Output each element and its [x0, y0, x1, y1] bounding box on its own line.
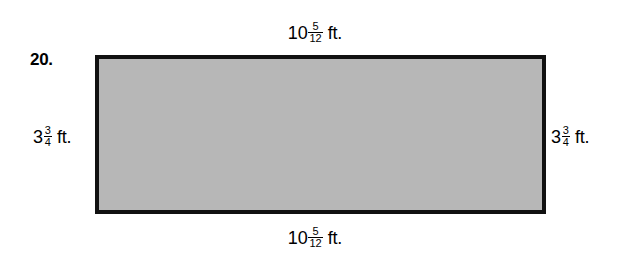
right-side-length-label: 3 3 4 ft. [551, 125, 589, 148]
right-fraction: 3 4 [562, 125, 570, 148]
problem-number: 20. [30, 51, 53, 68]
left-whole-number: 3 [33, 128, 43, 146]
right-unit: ft. [575, 128, 589, 146]
left-unit: ft. [57, 128, 71, 146]
top-fraction: 5 12 [308, 21, 322, 44]
left-numerator: 3 [44, 125, 52, 136]
right-numerator: 3 [562, 125, 570, 136]
right-denominator: 4 [562, 136, 570, 148]
top-side-length-label: 10 5 12 ft. [0, 21, 630, 44]
right-whole-number: 3 [551, 128, 561, 146]
left-side-length-label: 3 3 4 ft. [33, 125, 71, 148]
bottom-unit: ft. [328, 229, 342, 247]
bottom-whole-number: 10 [288, 229, 308, 247]
left-denominator: 4 [44, 136, 52, 148]
top-denominator: 12 [308, 32, 322, 44]
bottom-fraction: 5 12 [308, 226, 322, 249]
bottom-denominator: 12 [308, 237, 322, 249]
left-fraction: 3 4 [44, 125, 52, 148]
shaded-rectangle [95, 55, 546, 214]
top-whole-number: 10 [288, 24, 308, 42]
top-unit: ft. [328, 24, 342, 42]
geometry-figure: 20. 10 5 12 ft. 10 5 12 ft. 3 3 4 ft. 3 … [0, 0, 630, 262]
bottom-numerator: 5 [312, 226, 320, 237]
bottom-side-length-label: 10 5 12 ft. [0, 226, 630, 249]
top-numerator: 5 [312, 21, 320, 32]
